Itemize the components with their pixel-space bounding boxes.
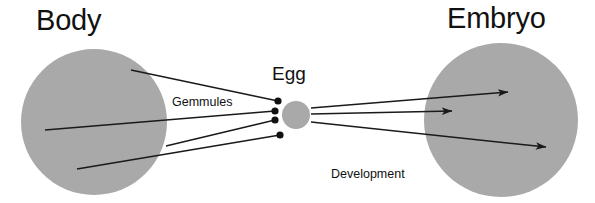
gemmule-line-3 xyxy=(166,120,275,146)
development-of-embryo-label: Development of Embryo xyxy=(331,139,405,203)
egg-circle xyxy=(282,101,310,129)
embryo-circle xyxy=(424,43,578,197)
diagram-canvas: Body Egg Embryo Gemmules Development of … xyxy=(0,0,595,203)
gemmule-dots-group xyxy=(271,97,283,138)
egg-label: Egg xyxy=(272,63,306,84)
gemmules-label: Gemmules xyxy=(172,95,232,109)
development-label-line-1: Development xyxy=(331,167,405,181)
gemmule-dot-1 xyxy=(274,97,281,104)
gemmule-dot-2 xyxy=(271,107,278,114)
body-label: Body xyxy=(36,4,101,36)
embryo-label: Embryo xyxy=(447,2,546,34)
gemmule-dot-4 xyxy=(276,131,283,138)
gemmule-dot-3 xyxy=(271,116,278,123)
